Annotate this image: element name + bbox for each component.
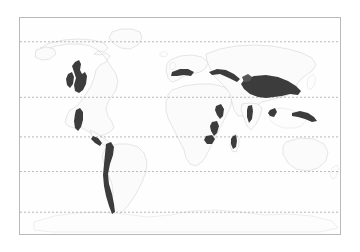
outline-alaska: [35, 47, 56, 60]
outline-antarctica: [34, 210, 338, 232]
map-canvas: [20, 18, 340, 234]
outline-africa: [166, 84, 232, 166]
highlight-rocky-mountains-cordillera: [72, 60, 87, 93]
outline-japan: [307, 74, 316, 90]
highlight-coast-ranges: [66, 72, 74, 88]
map-frame: [19, 17, 341, 235]
continent-outlines: [34, 29, 339, 232]
outline-greenland: [109, 29, 142, 49]
outline-new-zealand: [330, 165, 339, 179]
outline-iceland: [160, 51, 168, 57]
world-map-figure: [0, 0, 360, 252]
outline-australia: [283, 138, 328, 171]
